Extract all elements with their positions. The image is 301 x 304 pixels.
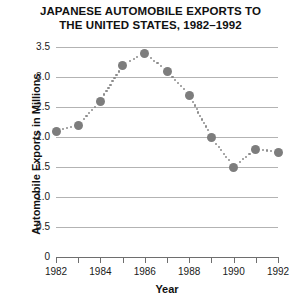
line-dot xyxy=(242,158,244,160)
data-point-marker xyxy=(274,148,283,157)
y-axis-tick-labels: 3.53.02.52.01.51.00.50 xyxy=(16,47,50,257)
line-dot xyxy=(207,129,209,131)
line-dot xyxy=(136,56,138,58)
gridline xyxy=(56,167,278,168)
line-dot xyxy=(88,112,90,114)
line-dot xyxy=(91,109,93,111)
line-dot xyxy=(177,82,179,84)
y-axis-tick-label: 2.5 xyxy=(20,102,50,112)
line-dot xyxy=(245,156,247,158)
x-axis-tick-label: 1982 xyxy=(36,266,76,277)
line-dot xyxy=(103,93,105,95)
gridline xyxy=(56,137,278,138)
line-dot xyxy=(205,125,207,127)
data-point-marker xyxy=(74,121,83,130)
data-point-marker xyxy=(52,127,61,136)
y-axis-tick-label: 3.0 xyxy=(20,72,50,82)
x-axis-tick-label: 1992 xyxy=(258,266,298,277)
x-axis-tick xyxy=(100,258,101,263)
x-axis-tick xyxy=(56,258,57,263)
line-dot xyxy=(262,149,264,151)
chart-container: JAPANESE AUTOMOBILE EXPORTS TO THE UNITE… xyxy=(0,0,301,304)
line-dot xyxy=(225,156,227,158)
line-dot xyxy=(248,153,250,155)
line-dot xyxy=(215,143,217,145)
x-axis-tick xyxy=(167,258,168,263)
y-axis-tick-label: 3.5 xyxy=(20,42,50,52)
line-dot xyxy=(153,60,155,62)
gridline xyxy=(56,227,278,228)
x-axis-tick xyxy=(123,258,124,263)
x-axis-tick-label: 1990 xyxy=(214,266,254,277)
line-dot xyxy=(194,104,196,106)
y-axis-tick-label: 1.5 xyxy=(20,162,50,172)
line-dot xyxy=(66,127,68,129)
x-axis-tick-label: 1986 xyxy=(125,266,165,277)
line-dot xyxy=(203,122,205,124)
line-dot xyxy=(197,111,199,113)
y-axis-tick-label: 2.0 xyxy=(20,132,50,142)
line-dot xyxy=(183,88,185,90)
line-dot xyxy=(239,161,241,163)
chart-title-line-2: THE UNITED STATES, 1982–1992 xyxy=(0,18,301,32)
line-dot xyxy=(107,87,109,89)
line-dot xyxy=(113,77,115,79)
data-point-marker xyxy=(140,49,149,58)
line-dot xyxy=(70,126,72,128)
x-axis-tick xyxy=(189,258,190,263)
gridline xyxy=(56,77,278,78)
x-axis-title: Year xyxy=(56,283,278,295)
line-dot xyxy=(129,60,131,62)
gridline xyxy=(56,197,278,198)
y-axis-tick-label: 1.0 xyxy=(20,192,50,202)
x-axis-tick xyxy=(234,258,235,263)
line-dot xyxy=(270,150,272,152)
line-dot xyxy=(220,149,222,151)
line-dot xyxy=(196,108,198,110)
y-axis-tick-label: 0 xyxy=(20,252,50,262)
line-dot xyxy=(180,85,182,87)
plot-area xyxy=(56,47,278,257)
y-axis-tick-label: 0.5 xyxy=(20,222,50,232)
line-dot xyxy=(105,90,107,92)
data-point-marker xyxy=(163,67,172,76)
line-dot xyxy=(111,80,113,82)
chart-title-line-1: JAPANESE AUTOMOBILE EXPORTS TO xyxy=(40,5,261,17)
line-dot xyxy=(118,70,120,72)
line-dot xyxy=(115,74,117,76)
line-dot xyxy=(171,76,173,78)
line-dot xyxy=(192,101,194,103)
chart-title: JAPANESE AUTOMOBILE EXPORTS TO THE UNITE… xyxy=(0,4,301,32)
line-dot xyxy=(160,65,162,67)
line-dot xyxy=(266,149,268,151)
x-axis-tick-label: 1988 xyxy=(169,266,209,277)
data-point-marker xyxy=(118,61,127,70)
line-dot xyxy=(62,128,64,130)
data-point-marker xyxy=(96,97,105,106)
line-dot xyxy=(85,115,87,117)
line-dot xyxy=(199,115,201,117)
x-axis-tick xyxy=(211,258,212,263)
data-point-marker xyxy=(185,91,194,100)
line-dot xyxy=(223,153,225,155)
data-point-marker xyxy=(207,133,216,142)
x-axis-tick xyxy=(256,258,257,263)
data-point-marker xyxy=(251,145,260,154)
line-dot xyxy=(201,118,203,120)
line-dot xyxy=(150,57,152,59)
x-axis-tick xyxy=(78,258,79,263)
x-axis-tick-label: 1984 xyxy=(80,266,120,277)
line-dot xyxy=(156,62,158,64)
data-point-marker xyxy=(229,163,238,172)
line-dot xyxy=(218,146,220,148)
line-dot xyxy=(174,79,176,81)
x-axis-tick xyxy=(278,258,279,263)
line-dot xyxy=(133,58,135,60)
gridline xyxy=(56,107,278,108)
x-axis-tick xyxy=(145,258,146,263)
line-dot xyxy=(83,118,85,120)
gridline xyxy=(56,47,278,48)
line-dot xyxy=(228,159,230,161)
line-dot xyxy=(109,84,111,86)
